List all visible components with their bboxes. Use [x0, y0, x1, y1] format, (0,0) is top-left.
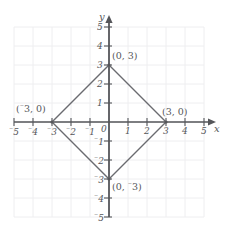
- y-tick-neg4: ⁻4: [94, 194, 104, 204]
- x-tick-5: 5: [201, 127, 207, 136]
- coordinate-plane-figure: y x 0 ⁻5 ⁻4 ⁻3 ⁻2 ⁻1 1 2 3 4 5 5 4 3 2 1…: [0, 0, 225, 229]
- x-tick-neg3: ⁻3: [47, 127, 57, 137]
- x-tick-neg5: ⁻5: [9, 127, 19, 137]
- x-tick-neg2: ⁻2: [66, 127, 76, 137]
- annotation-bottom-vertex: (0, ⁻3): [112, 182, 142, 192]
- x-tick-2: 2: [144, 127, 150, 136]
- vertex-left: [50, 120, 53, 123]
- y-tick-neg5: ⁻5: [94, 213, 104, 223]
- vertex-bottom: [107, 177, 110, 180]
- vertex-top: [107, 63, 110, 66]
- x-tick-4: 4: [182, 127, 188, 136]
- x-tick-1: 1: [125, 127, 131, 136]
- y-tick-3: 3: [97, 61, 103, 70]
- y-tick-2: 2: [97, 80, 103, 89]
- graph-canvas: [0, 0, 225, 229]
- y-tick-1: 1: [97, 99, 103, 108]
- x-axis: [14, 118, 216, 125]
- y-axis-label: y: [99, 12, 105, 22]
- y-tick-neg1: ⁻1: [94, 137, 104, 147]
- origin-label: 0: [101, 125, 107, 134]
- x-tick-3: 3: [163, 127, 169, 136]
- y-tick-5: 5: [97, 23, 103, 32]
- annotation-top-vertex: (0, 3): [112, 51, 138, 61]
- y-tick-neg2: ⁻2: [94, 156, 104, 166]
- annotation-right-vertex: (3, 0): [162, 107, 188, 117]
- vertex-right: [164, 120, 167, 123]
- y-tick-neg3: ⁻3: [94, 175, 104, 185]
- x-axis-label: x: [214, 124, 220, 134]
- x-tick-neg4: ⁻4: [28, 127, 38, 137]
- annotation-left-vertex: (⁻3, 0): [16, 104, 46, 114]
- y-tick-4: 4: [97, 42, 103, 51]
